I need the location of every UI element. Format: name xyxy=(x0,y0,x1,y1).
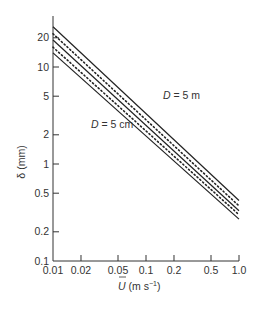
annotation-d-5m: D = 5 m xyxy=(163,89,200,101)
boundary-layer-chart: 0.10.20.512510200.010.020.050.10.20.51.0… xyxy=(0,0,263,310)
y-tick-label: 0.2 xyxy=(34,225,49,237)
x-tick-label: 0.02 xyxy=(71,264,92,276)
x-axis-label: U (m s−1) xyxy=(118,277,160,292)
y-tick-label: 20 xyxy=(37,31,49,43)
series-line xyxy=(53,34,239,206)
series-line xyxy=(53,53,239,219)
y-tick-label: 0.5 xyxy=(34,187,49,199)
axes: 0.10.20.512510200.010.020.050.10.20.51.0 xyxy=(34,16,246,276)
y-tick-label: 2 xyxy=(43,128,49,140)
chart-canvas: 0.10.20.512510200.010.020.050.10.20.51.0… xyxy=(0,0,263,310)
series-line xyxy=(53,40,239,211)
x-tick-label: 0.5 xyxy=(204,264,219,276)
y-tick-label: 5 xyxy=(43,90,49,102)
x-tick-label: 0.01 xyxy=(43,264,64,276)
x-tick-label: 0.2 xyxy=(167,264,182,276)
series-line xyxy=(53,27,239,201)
y-axis-label: δ (mm) xyxy=(15,145,27,178)
series-line xyxy=(53,47,239,215)
svg-text:U (m s−1): U (m s−1) xyxy=(118,280,160,292)
x-tick-label: 0.05 xyxy=(108,264,129,276)
x-tick-label: 1.0 xyxy=(232,264,247,276)
x-tick-label: 0.1 xyxy=(139,264,154,276)
series-lines xyxy=(53,27,239,219)
y-tick-label: 10 xyxy=(37,61,49,73)
annotation-d-5cm: D = 5 cm xyxy=(91,118,134,130)
y-tick-label: 1 xyxy=(43,158,49,170)
